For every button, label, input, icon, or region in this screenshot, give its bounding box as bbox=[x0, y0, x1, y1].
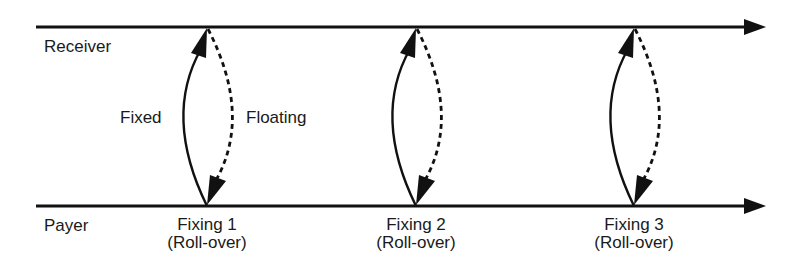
floating-arrowhead-icon bbox=[634, 175, 653, 205]
floating-arrowhead-icon bbox=[416, 175, 435, 205]
receiver-timeline: Receiver bbox=[36, 19, 766, 56]
fixed-flow-arc bbox=[610, 49, 634, 206]
receiver-label: Receiver bbox=[44, 37, 111, 56]
fixing-sublabel: (Roll-over) bbox=[594, 233, 673, 252]
floating-flow-arc bbox=[208, 29, 232, 182]
fixed-arrowhead-icon bbox=[618, 28, 634, 58]
floating-leg-label: Floating bbox=[246, 108, 306, 127]
fixing-label: Fixing 3 bbox=[604, 215, 664, 234]
receiver-axis-arrowhead-icon bbox=[744, 19, 766, 35]
floating-flow-arc bbox=[635, 29, 659, 182]
floating-flow-arc bbox=[417, 29, 441, 182]
fixing-label: Fixing 2 bbox=[386, 215, 446, 234]
fixings-group: Fixing 1(Roll-over)Fixing 2(Roll-over)Fi… bbox=[167, 28, 673, 252]
fixing-3: Fixing 3(Roll-over) bbox=[594, 28, 673, 252]
floating-arrowhead-icon bbox=[207, 175, 226, 205]
fixing-1: Fixing 1(Roll-over) bbox=[167, 28, 246, 252]
fixed-leg-label: Fixed bbox=[120, 108, 162, 127]
payer-label: Payer bbox=[44, 216, 89, 235]
fixed-arrowhead-icon bbox=[191, 28, 207, 58]
fixing-2: Fixing 2(Roll-over) bbox=[376, 28, 455, 252]
fixed-flow-arc bbox=[392, 49, 416, 206]
payer-axis-arrowhead-icon bbox=[744, 198, 766, 214]
fixed-arrowhead-icon bbox=[400, 28, 416, 58]
fixing-sublabel: (Roll-over) bbox=[376, 233, 455, 252]
swap-cashflow-diagram: Receiver Payer Fixed Floating Fixing 1(R… bbox=[0, 0, 800, 268]
fixing-sublabel: (Roll-over) bbox=[167, 233, 246, 252]
fixing-label: Fixing 1 bbox=[177, 215, 237, 234]
fixed-flow-arc bbox=[183, 49, 207, 206]
